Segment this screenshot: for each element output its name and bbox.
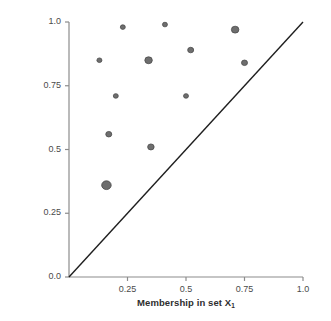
- y-tick-label-0: 0.0: [27, 271, 61, 281]
- diagonal-y-equals-x: [69, 22, 303, 277]
- data-point-10: [231, 26, 239, 33]
- data-point-5: [145, 57, 153, 64]
- data-point-7: [162, 22, 167, 27]
- y-tick-label-1: 0.25: [27, 207, 61, 217]
- data-point-2: [113, 94, 118, 99]
- scatter-plot-figure: Membership in set Y Membership in set X1…: [0, 0, 331, 321]
- y-tick-label-3: 0.75: [27, 80, 61, 90]
- x-tick-label-1: 0.5: [169, 284, 203, 294]
- data-point-8: [184, 94, 189, 99]
- data-point-6: [148, 144, 155, 150]
- data-point-4: [102, 181, 112, 190]
- data-point-3: [106, 131, 112, 137]
- data-point-0: [97, 58, 102, 63]
- x-tick-label-2: 0.75: [228, 284, 262, 294]
- x-tick-label-3: 1.0: [286, 284, 320, 294]
- data-point-1: [120, 25, 125, 30]
- y-tick-label-4: 1.0: [27, 16, 61, 26]
- data-point-9: [188, 47, 194, 53]
- x-tick-label-0: 0.25: [111, 284, 145, 294]
- y-tick-label-2: 0.5: [27, 144, 61, 154]
- data-point-11: [242, 60, 248, 66]
- reference-line: [69, 22, 303, 277]
